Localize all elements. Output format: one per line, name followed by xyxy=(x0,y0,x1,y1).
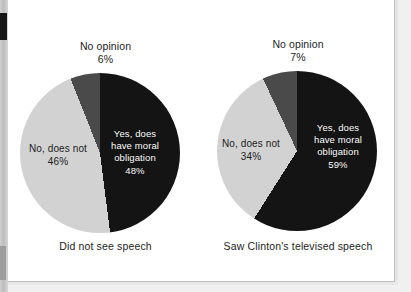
no-opinion-callout-right: No opinion 7% xyxy=(208,38,388,64)
yes-slice-label-left: Yes, does have moral obligation 48% xyxy=(98,128,172,177)
scanned-page-root: No opinion 6% Yes, does have moral oblig… xyxy=(0,0,411,292)
caption-left: Did not see speech xyxy=(18,240,193,253)
scan-artifact-block-lower xyxy=(0,246,6,280)
yes-label-line3-left: obligation xyxy=(114,152,156,163)
no-value-left: 46% xyxy=(18,155,98,168)
document-page: No opinion 6% Yes, does have moral oblig… xyxy=(8,0,395,282)
yes-label-line1-left: Yes, does xyxy=(114,128,156,139)
yes-label-line1-right: Yes, does xyxy=(317,122,359,133)
no-label-right: No, does not xyxy=(222,138,280,149)
yes-label-line3-right: obligation xyxy=(317,146,359,157)
yes-value-left: 48% xyxy=(125,165,144,176)
no-value-right: 34% xyxy=(211,150,291,163)
scan-artifact-block xyxy=(0,13,7,40)
no-label-left: No, does not xyxy=(29,143,87,154)
pie-chart-saw-clinton-speech: No opinion 7% Yes, does have moral oblig… xyxy=(203,0,393,281)
pie-graphic-right: Yes, does have moral obligation 59% No, … xyxy=(217,71,377,231)
yes-label-line2-right: have moral xyxy=(314,134,362,145)
no-opinion-label-left: No opinion xyxy=(80,40,131,52)
no-opinion-value-right: 7% xyxy=(208,51,388,64)
pie-graphic-left: Yes, does have moral obligation 48% No, … xyxy=(20,73,180,233)
pie-chart-did-not-see-speech: No opinion 6% Yes, does have moral oblig… xyxy=(8,0,203,281)
no-opinion-label-right: No opinion xyxy=(272,38,323,50)
no-slice-label-left: No, does not 46% xyxy=(18,142,98,168)
yes-slice-label-right: Yes, does have moral obligation 59% xyxy=(301,122,375,171)
no-opinion-value-left: 6% xyxy=(18,53,193,66)
no-opinion-callout-left: No opinion 6% xyxy=(18,40,193,66)
yes-label-line2-left: have moral xyxy=(111,140,159,151)
caption-right: Saw Clinton's televised speech xyxy=(203,240,393,253)
yes-value-right: 59% xyxy=(328,159,347,170)
no-slice-label-right: No, does not 34% xyxy=(211,137,291,163)
